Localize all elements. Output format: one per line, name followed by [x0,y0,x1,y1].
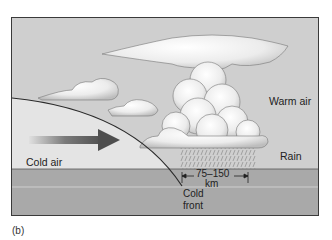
rain-label: Rain [280,151,302,163]
cold-front-illustration [12,18,319,216]
small-cloud-left [38,78,118,100]
distance-unit-label: km [205,178,218,189]
diagram-frame: Cold air Warm air Rain 75–150 km Cold fr… [11,17,319,216]
warm-air-label: Warm air [269,96,311,108]
figure-caption: (b) [12,225,24,236]
cold-front-label-line2: front [183,200,203,211]
cold-air-label: Cold air [26,157,62,169]
cumulonimbus-anvil [102,35,288,70]
cold-front-label-line1: Cold [183,188,204,199]
small-cloud-middle [108,100,158,116]
ground [12,169,319,216]
